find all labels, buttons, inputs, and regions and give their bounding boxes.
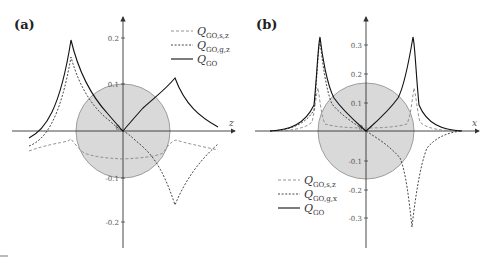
tick-label: 0.2 bbox=[108, 35, 119, 43]
corner-mark bbox=[0, 255, 8, 257]
panel-b: 0.3 0.2 0.1 0 -0.1 -0.2 -0.3 x (b) QGO,s… bbox=[255, 17, 479, 248]
tick-label: 0.1 bbox=[351, 100, 362, 108]
panel-label-b: (b) bbox=[256, 17, 277, 32]
tick-label: -0.1 bbox=[349, 158, 363, 166]
tick-label: 0.3 bbox=[351, 42, 362, 50]
svg-text:QGO,s,z: QGO,s,z bbox=[197, 25, 229, 40]
panel-label-a: (a) bbox=[14, 17, 35, 32]
figure: 0.2 0.1 0 -0.1 -0.2 z (a) QGO,s,z QGO,g,… bbox=[0, 0, 486, 258]
tick-label: -0.1 bbox=[106, 175, 120, 183]
x-axis-label: x bbox=[472, 118, 477, 128]
svg-text:QGO,g,z: QGO,g,z bbox=[197, 39, 230, 54]
svg-text:QGO,s,z: QGO,s,z bbox=[304, 174, 336, 189]
tick-label: -0.2 bbox=[106, 219, 120, 227]
tick-label: -0.3 bbox=[349, 215, 363, 223]
tick-label: 0.1 bbox=[108, 81, 119, 89]
panel-a: 0.2 0.1 0 -0.1 -0.2 z (a) QGO,s,z QGO,g,… bbox=[12, 17, 235, 248]
legend-a: QGO,s,z QGO,g,z QGO bbox=[171, 25, 230, 68]
svg-text:QGO: QGO bbox=[197, 53, 218, 68]
svg-text:QGO,g,x: QGO,g,x bbox=[304, 188, 337, 203]
legend-b: QGO,s,z QGO,g,x QGO bbox=[278, 174, 337, 217]
tick-label: -0.2 bbox=[349, 187, 363, 195]
tick-label: 0.2 bbox=[351, 71, 362, 79]
svg-text:QGO: QGO bbox=[304, 202, 325, 217]
x-axis-label: z bbox=[228, 118, 234, 128]
